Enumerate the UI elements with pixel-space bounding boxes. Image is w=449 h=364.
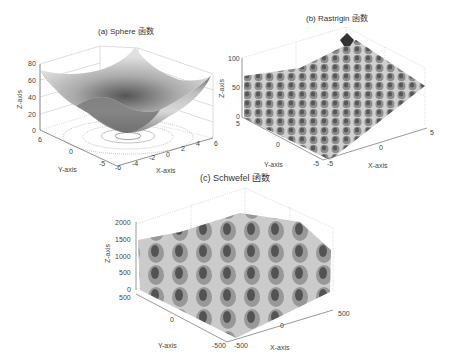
plot-a-title: (a) Sphere 函数 <box>98 28 154 36</box>
plot-b-xtick: -5 <box>327 160 333 167</box>
rastrigin-plot <box>242 27 427 160</box>
plot-a-ztick: 20 <box>28 111 36 118</box>
plot-c-xlabel: X-axis <box>270 344 289 351</box>
plot-b-ytick: 0 <box>276 141 280 148</box>
plot-a-xtick: -2 <box>149 154 155 161</box>
plot-a-xtick: 4 <box>196 140 200 147</box>
plot-c-ytick: -500 <box>212 342 226 349</box>
plot-a-zlabel: Z-axis <box>16 90 23 109</box>
plot-c-ztick: 2000 <box>115 219 131 226</box>
plot-a-ytick: 0 <box>69 148 73 155</box>
plot-a-ytick: 6 <box>38 136 42 143</box>
plot-a-ytick: -5 <box>99 160 105 167</box>
plot-a-ztick: 80 <box>28 60 36 67</box>
plot-a-xtick: 6 <box>214 140 218 147</box>
plot-b-ztick: 50 <box>232 84 240 91</box>
plot-a-ylabel: Y-axis <box>58 166 77 173</box>
plot-b-xlabel: X-axis <box>368 162 387 169</box>
plot-c-xtick: 500 <box>338 310 350 317</box>
plot-c-ylabel: Y-axis <box>158 342 177 349</box>
plot-a-xtick: 0 <box>166 151 170 158</box>
plot-b-title: (b) Rastrigin 函数 <box>306 15 368 23</box>
plot-c-title: (c) Schwefel 函数 <box>200 174 270 183</box>
plot-a-xtick: 2 <box>181 145 185 152</box>
plot-c-ztick: 1500 <box>115 236 131 243</box>
plot-c-ztick: 1000 <box>115 253 131 260</box>
plot-c-xtick: 0 <box>280 322 284 329</box>
plot-c-ytick: 500 <box>119 294 131 301</box>
plot-a-ztick: 60 <box>28 77 36 84</box>
plot-b-ztick: 100 <box>228 55 240 62</box>
plot-a-ztick: 0 <box>32 127 36 134</box>
plot-c-zlabel: Z-axis <box>104 244 111 263</box>
plot-b-xtick: 5 <box>430 129 434 136</box>
sphere-plot <box>40 46 213 166</box>
plot-b-xtick: 0 <box>379 144 383 151</box>
plot-c-ztick: 0 <box>127 286 131 293</box>
plot-a-xtick: -6 <box>115 164 121 171</box>
plot-b-ytick: 5 <box>236 120 240 127</box>
plot-b-ytick: -5 <box>313 160 319 167</box>
schwefel-plot <box>136 188 333 342</box>
plot-b-ztick: 0 <box>236 113 240 120</box>
plot-a-xtick: -4 <box>132 160 138 167</box>
plot-c-ytick: 0 <box>170 316 174 323</box>
plot-c-xtick: -500 <box>234 342 248 349</box>
plot-b-zlabel: Z-axis <box>218 79 225 98</box>
plot-c-ztick: 500 <box>119 269 131 276</box>
plot-a-xlabel: X-axis <box>156 167 175 174</box>
plot-a-ztick: 40 <box>28 94 36 101</box>
plot-b-ylabel: Y-axis <box>264 161 283 168</box>
